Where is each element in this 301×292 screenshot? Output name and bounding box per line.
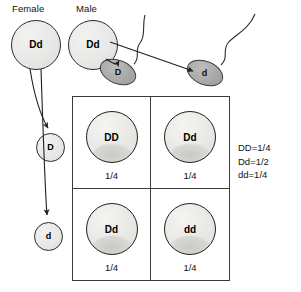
zygote-3-fraction: 1/4: [183, 262, 196, 273]
zygote-0-fraction: 1/4: [105, 170, 118, 181]
punnett-grid: DD 1/4 Dd 1/4 Dd 1/4 dd: [72, 96, 230, 281]
arrow-female-to-gamete-D: [30, 69, 48, 128]
arrow-male-to-sperm-d: [110, 42, 193, 71]
zygote-3: dd: [164, 203, 216, 255]
punnett-square-diagram: Female Male Dd Dd D d D d: [0, 0, 301, 292]
zygote-1-fraction: 1/4: [183, 170, 196, 181]
zygote-0-genotype: DD: [104, 132, 118, 143]
arrow-female-to-gamete-d: [41, 69, 47, 215]
arrow-male-to-sperm-D: [106, 59, 119, 64]
zygote-2-fraction: 1/4: [105, 262, 118, 273]
zygote-1-genotype: Dd: [183, 132, 196, 143]
zygote-wrap-2: Dd: [86, 203, 138, 255]
zygote-1: Dd: [164, 111, 216, 163]
punnett-cell-2: Dd 1/4: [73, 189, 151, 281]
zygote-2: Dd: [86, 203, 138, 255]
zygote-0: DD: [86, 111, 138, 163]
legend-line-dd: dd=1/4: [238, 168, 270, 182]
punnett-cell-1: Dd 1/4: [151, 97, 229, 189]
zygote-3-genotype: dd: [184, 224, 196, 235]
sperm-d-tail: [221, 14, 255, 65]
zygote-wrap-3: dd: [164, 203, 216, 255]
genotype-ratio-legend: DD=1/4 Dd=1/2 dd=1/4: [238, 141, 270, 182]
legend-line-Dd: Dd=1/2: [238, 155, 270, 169]
punnett-cell-0: DD 1/4: [73, 97, 151, 189]
zygote-wrap-1: Dd: [164, 111, 216, 163]
legend-line-DD: DD=1/4: [238, 141, 270, 155]
zygote-wrap-0: DD: [86, 111, 138, 163]
zygote-2-genotype: Dd: [105, 224, 118, 235]
sperm-D-tail: [134, 15, 145, 64]
punnett-cell-3: dd 1/4: [151, 189, 229, 281]
